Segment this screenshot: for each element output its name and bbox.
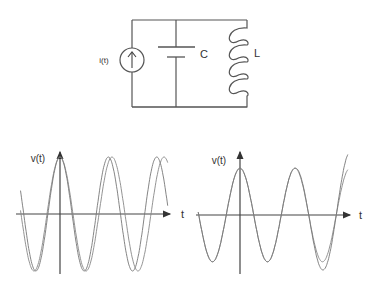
plot-right: v(t) t	[196, 152, 362, 274]
lc-circuit-figure: i(t) C L v(t) t v(t) t	[0, 0, 377, 289]
xlabel-right: t	[359, 209, 362, 221]
waveform-right-growing	[198, 155, 348, 271]
circuit: i(t) C L	[99, 20, 260, 107]
inductor-coil-icon	[132, 20, 248, 107]
capacitor-icon	[158, 20, 195, 107]
current-source-up-arrow-icon	[120, 48, 144, 72]
source-label: i(t)	[99, 56, 109, 65]
inductor-label: L	[254, 47, 260, 59]
ylabel-left: v(t)	[31, 153, 45, 164]
xlabel-left: t	[181, 208, 184, 220]
plot-left: v(t) t	[16, 152, 184, 274]
ylabel-right: v(t)	[212, 155, 226, 166]
capacitor-label: C	[200, 48, 208, 60]
